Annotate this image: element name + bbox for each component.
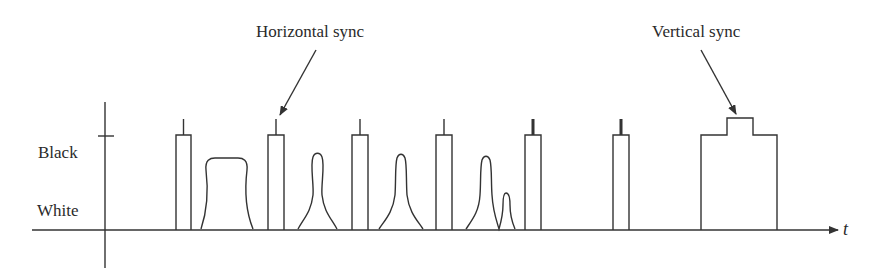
sync-pulse-2 [268,119,284,230]
horizontal-sync-label: Horizontal sync [256,22,364,42]
sync-pulse-5 [525,119,541,230]
white-level-label: White [37,201,79,221]
video-line-narrow-peak [298,153,337,229]
video-line-broad [201,158,253,229]
horizontal-sync-arrow [280,50,316,115]
sync-pulse-3 [352,119,368,230]
video-line-sharp-peak [379,154,423,229]
vertical-sync-arrow [701,50,736,114]
sync-pulse-6 [613,119,629,230]
sync-pulse-1 [176,119,191,230]
sync-pulse-4 [436,119,452,230]
video-line-double-peak [466,156,515,229]
vertical-sync-block [701,118,777,230]
vertical-sync-label: Vertical sync [652,22,740,42]
time-axis-label: t [843,219,848,240]
black-level-label: Black [38,143,78,163]
video-signal-diagram: Black White Horizontal sync Vertical syn… [0,0,873,269]
waveform-canvas [0,0,873,269]
